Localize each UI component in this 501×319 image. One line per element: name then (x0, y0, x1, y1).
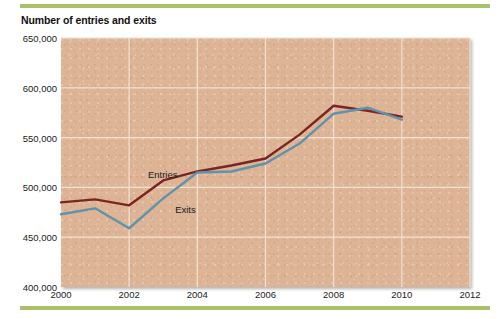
y-axis-tick-label: 550,000 (23, 132, 57, 143)
y-axis-tick-label: 600,000 (23, 82, 57, 93)
x-axis-tick-label: 2004 (187, 289, 208, 300)
x-axis-tick-labels: 2000200220042006200820102012 (0, 289, 501, 309)
series-line-exits (61, 108, 402, 229)
x-axis-tick-label: 2010 (391, 289, 412, 300)
chart-figure: Number of entries and exits 400,000450,0… (0, 0, 501, 319)
y-axis-tick-label: 450,000 (23, 232, 57, 243)
y-axis-tick-labels: 400,000450,000500,000550,000600,000650,0… (0, 38, 57, 287)
top-divider-rule (20, 4, 490, 8)
x-axis-tick-label: 2002 (119, 289, 140, 300)
series-label-entries: Entries (148, 169, 178, 180)
series-lines (61, 106, 402, 229)
series-line-entries (61, 106, 402, 206)
plot-wrapper (61, 38, 470, 287)
x-axis-tick-label: 2000 (50, 289, 71, 300)
y-axis-tick-label: 650,000 (23, 33, 57, 44)
series-label-exits: Exits (175, 204, 196, 215)
x-axis-tick-label: 2008 (323, 289, 344, 300)
chart-title: Number of entries and exits (21, 14, 157, 26)
x-axis-tick-label: 2012 (459, 289, 480, 300)
y-axis-tick-label: 500,000 (23, 182, 57, 193)
plot-svg (61, 38, 470, 287)
x-axis-tick-label: 2006 (255, 289, 276, 300)
